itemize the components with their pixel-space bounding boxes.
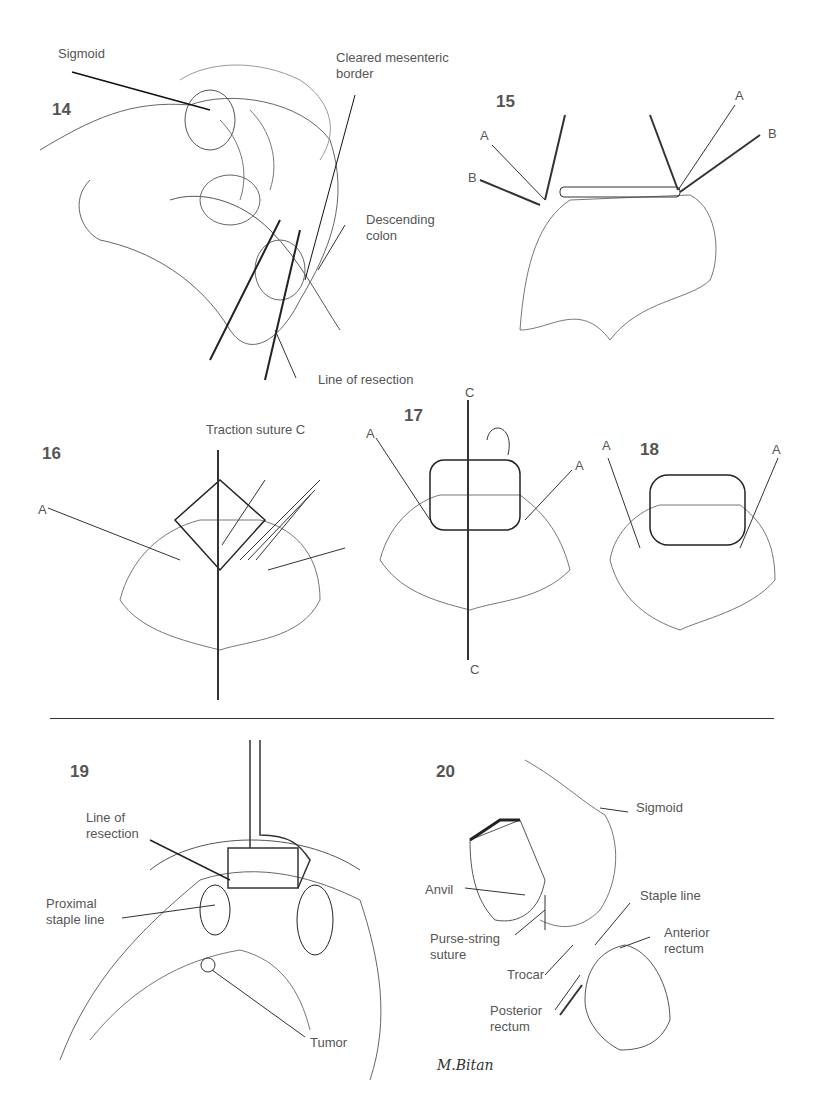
label-17-a-right: A [575,458,584,474]
label-proximal-staple-line-line1: Proximal [46,896,97,912]
figure-19-drawing [60,740,381,1080]
section-divider [50,718,774,719]
figure-15-drawing [480,105,760,340]
label-20-sigmoid: Sigmoid [636,800,683,816]
label-purse-string-suture-line2: suture [430,947,466,963]
figure-18-drawing [608,458,778,630]
label-trocar: Trocar [507,967,544,983]
figure-19-number: 19 [70,762,89,782]
label-19-line-of-resection-line2: resection [86,826,139,842]
label-descending-colon-line2: colon [366,228,397,244]
label-anvil: Anvil [425,882,453,898]
figure-16-number: 16 [42,444,61,464]
artist-signature: M.Bitan [437,1057,494,1073]
label-anterior-rectum-line2: rectum [664,941,704,957]
label-traction-suture-c: Traction suture C [206,422,305,438]
figure-17-number: 17 [404,406,423,426]
label-proximal-staple-line-line2: staple line [46,912,105,928]
label-17-c-bottom: C [470,662,479,678]
label-cleared-mesenteric-line2: border [336,66,374,82]
figure-17-drawing [376,400,572,660]
figure-18-number: 18 [640,440,659,460]
label-sigmoid: Sigmoid [58,46,105,62]
label-15-b-right: B [768,126,777,142]
label-descending-colon-line1: Descending [366,212,435,228]
label-19-line-of-resection-line1: Line of [86,810,125,826]
figure-15-number: 15 [496,92,515,112]
label-cleared-mesenteric-line1: Cleared mesenteric [336,50,449,66]
label-15-a-right: A [735,88,744,104]
label-staple-line: Staple line [640,888,701,904]
label-purse-string-suture-line1: Purse-string [430,931,500,947]
label-18-a-left: A [602,438,611,454]
figure-16-drawing [48,450,345,700]
label-17-a-left: A [366,426,375,442]
label-posterior-rectum-line1: Posterior [490,1003,542,1019]
figure-14-drawing [40,65,355,380]
label-15-a-left: A [480,128,489,144]
figure-14-number: 14 [52,100,71,120]
label-18-a-right: A [772,442,781,458]
figure-20-number: 20 [436,762,455,782]
label-line-of-resection: Line of resection [318,372,413,388]
label-posterior-rectum-line2: rectum [490,1019,530,1035]
label-15-b-left: B [468,170,477,186]
label-anterior-rectum-line1: Anterior [664,925,710,941]
label-16-a: A [38,502,47,518]
label-17-c-top: C [465,385,474,401]
label-tumor: Tumor [310,1035,347,1051]
